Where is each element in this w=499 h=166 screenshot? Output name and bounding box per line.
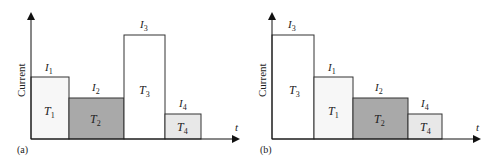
panel-label-a: (a): [17, 144, 28, 156]
current-label-b-4: I4: [420, 97, 429, 112]
current-label-b-3: I2: [374, 81, 383, 96]
x-axis-label-b: t: [476, 121, 480, 133]
current-label-b-1: I3: [287, 18, 296, 33]
current-label-a-1: I1: [44, 61, 53, 76]
panel-b: I3 I1 I2 I4 T3 T1 T2 T4 Current t (b): [256, 16, 480, 156]
panel-label-b: (b): [260, 144, 272, 156]
current-label-a-4: I4: [178, 97, 187, 112]
y-axis-label-a: Current: [15, 63, 27, 97]
y-axis-label-b: Current: [256, 63, 268, 97]
current-label-b-2: I1: [327, 61, 336, 76]
panel-a: I1 I2 I3 I4 T1 T2 T3 T4 Current t (a): [15, 16, 239, 156]
x-axis-label-a: t: [235, 121, 239, 133]
diagram-canvas: I1 I2 I3 I4 T1 T2 T3 T4 Current t (a) I3…: [0, 0, 499, 166]
current-label-a-2: I2: [91, 81, 100, 96]
current-label-a-3: I3: [139, 18, 148, 33]
